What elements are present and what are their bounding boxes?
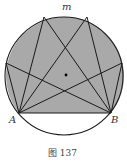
- label-B: B: [110, 114, 118, 125]
- geometry-figure: m A B 图 137: [0, 0, 127, 161]
- label-arc-m: m: [62, 1, 71, 12]
- center-dot: [65, 74, 68, 77]
- shaded-region: [6, 17, 124, 113]
- label-A: A: [8, 114, 16, 125]
- figure-caption: 图 137: [48, 148, 77, 158]
